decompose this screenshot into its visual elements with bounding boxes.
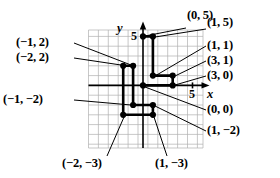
leader-1-neg3: [154, 117, 167, 156]
point-0-0: [140, 82, 146, 88]
point-3-0: [170, 82, 176, 88]
leader-1-neg2: [155, 106, 206, 131]
label-point-3-0: (3, 0): [207, 69, 233, 82]
leader-neg2-neg3: [107, 117, 124, 156]
y-axis-arrowhead: [140, 22, 146, 30]
label-point-neg2-2: (−2, 2): [16, 51, 49, 64]
point-1-neg2: [150, 102, 156, 108]
label-point-1-neg3: (1, −3): [155, 157, 188, 170]
graph-canvas: [0, 0, 280, 178]
label-point-neg1-2: (−1, 2): [16, 36, 49, 49]
leader-3-0: [175, 76, 206, 85]
y-tick-label-5: 5: [131, 30, 137, 42]
label-point-1-neg2: (1, −2): [207, 124, 240, 137]
leader-1-1: [155, 46, 206, 76]
point-neg2-2: [120, 63, 126, 69]
label-point-0-0: (0, 0): [207, 103, 233, 116]
label-point-neg2-neg3: (−2, −3): [62, 157, 102, 170]
label-point-neg1-neg2: (−1, −2): [3, 93, 43, 106]
point-0-5: [140, 33, 146, 39]
leader-neg2-2: [74, 58, 121, 65]
point-1-neg3: [150, 112, 156, 118]
label-point-1-1: (1, 1): [207, 39, 233, 52]
label-point-1-5: (1, 5): [207, 16, 233, 29]
point-neg1-2: [130, 63, 136, 69]
leader-3-1: [175, 61, 206, 76]
leader-lines: [74, 28, 206, 156]
y-axis-label: y: [117, 22, 123, 35]
point-1-5: [150, 33, 156, 39]
point-neg2-neg3: [120, 112, 126, 118]
x-axis-label: x: [207, 88, 213, 101]
point-3-1: [170, 73, 176, 79]
x-tick-label-5: 5: [189, 88, 195, 100]
point-neg1-neg2: [130, 102, 136, 108]
point-1-1: [150, 73, 156, 79]
label-point-3-1: (3, 1): [207, 54, 233, 67]
coordinate-grid-figure: y x 5 5 (0, 5) (1, 5) (1, 1) (3, 1) (3, …: [0, 0, 280, 178]
grid-lines: [89, 30, 204, 148]
